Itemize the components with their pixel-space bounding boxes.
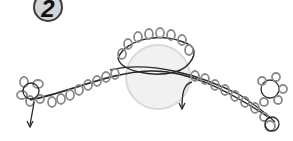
center-ring: [126, 45, 190, 109]
tatting-diagram: [0, 0, 293, 141]
left-flower: [17, 77, 44, 106]
left-picots: [48, 69, 119, 107]
right-flower: [258, 73, 287, 131]
